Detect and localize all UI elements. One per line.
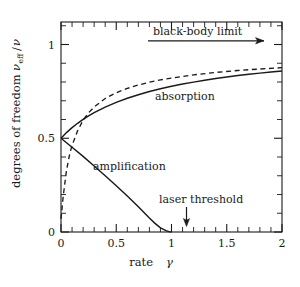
- curve-amplification: [61, 138, 172, 232]
- black-body-limit-arrow: [148, 38, 264, 44]
- x-axis-title: rate γ: [129, 255, 173, 269]
- y-axis-title-words: degrees of freedom: [9, 74, 23, 188]
- y-axis-symbol-slash: /: [9, 47, 23, 51]
- y-axis-minor-ticks: [61, 26, 282, 214]
- x-tick-label-2: 1: [168, 237, 175, 250]
- y-axis-symbol-subscript: eff: [16, 53, 25, 63]
- x-tick-label-0: 0: [58, 237, 65, 250]
- annotation-laser-threshold: laser threshold: [159, 193, 243, 206]
- annotation-black-body-limit: black-body limit: [153, 25, 243, 38]
- x-tick-label-1: 0.5: [108, 237, 126, 250]
- annotation-absorption: absorption: [155, 90, 215, 103]
- laser-threshold-arrow: [183, 207, 189, 227]
- y-tick-label-1: 0.5: [38, 132, 56, 145]
- curve-absorption: [61, 71, 282, 138]
- x-tick-label-3: 1.5: [218, 237, 236, 250]
- figure-container: degrees of freedom ν_eff/ν: [0, 0, 300, 287]
- y-axis-symbol-nu-denominator: ν: [9, 39, 23, 46]
- annotation-amplification: amplification: [93, 160, 166, 173]
- y-tick-label-0: 0: [48, 226, 55, 239]
- x-axis-title-word: rate: [129, 255, 153, 269]
- y-axis-title-symbol: ν eff / ν: [9, 39, 25, 71]
- x-axis-title-symbol: γ: [166, 255, 173, 269]
- x-tick-label-4: 2: [279, 237, 286, 250]
- y-axis-title: degrees of freedom ν eff / ν: [9, 39, 25, 188]
- plot-svg: black-body limit absorption amplificatio…: [0, 0, 300, 287]
- y-axis-symbol-nu-numerator: ν: [9, 64, 23, 71]
- y-tick-label-2: 1: [48, 39, 55, 52]
